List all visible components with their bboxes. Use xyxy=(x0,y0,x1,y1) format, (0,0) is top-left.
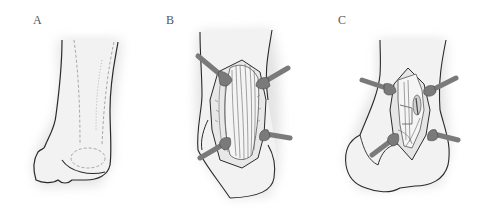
panel-c: C xyxy=(320,0,484,216)
panel-b: B xyxy=(160,0,320,216)
heel-outline-illustration xyxy=(0,0,160,216)
incision-retractors-illustration xyxy=(160,0,320,216)
panel-a: A xyxy=(0,0,160,216)
deep-dissection-illustration xyxy=(320,0,484,216)
